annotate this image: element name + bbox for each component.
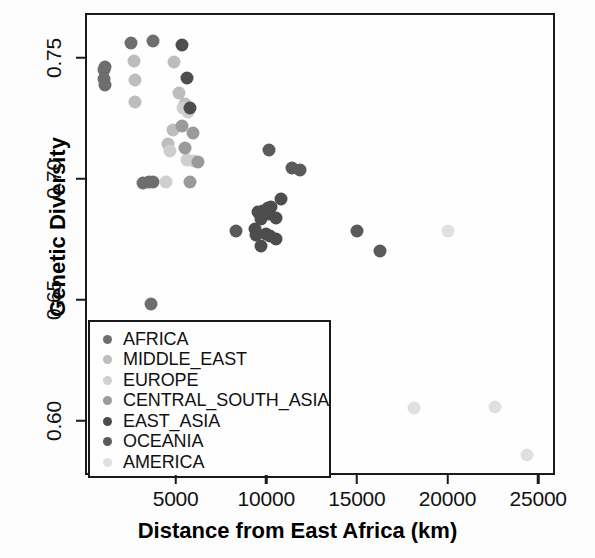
data-point <box>147 35 160 48</box>
data-point <box>181 71 194 84</box>
x-axis-tick-label: 20000 <box>419 487 476 511</box>
data-point <box>99 78 112 91</box>
legend-marker-icon <box>103 335 112 344</box>
legend-item-label: EAST_ASIA <box>123 411 220 432</box>
data-point <box>159 175 172 188</box>
data-point <box>408 402 421 415</box>
legend-box: AFRICAMIDDLE_EASTEUROPECENTRAL_SOUTH_ASI… <box>88 320 331 478</box>
data-point <box>145 297 158 310</box>
data-point <box>263 144 276 157</box>
data-point <box>521 449 534 462</box>
y-axis-tick-label: 0.70 <box>42 158 66 198</box>
data-point <box>128 54 141 67</box>
data-point <box>351 225 364 238</box>
data-point <box>373 244 386 257</box>
data-point <box>164 145 177 158</box>
data-point <box>176 39 189 52</box>
legend-item-east-asia: EAST_ASIA <box>90 411 329 432</box>
legend-item-europe: EUROPE <box>90 370 329 391</box>
data-point <box>178 141 191 154</box>
x-axis-title: Distance from East Africa (km) <box>0 518 595 544</box>
legend-item-middle-east: MIDDLE_EAST <box>90 350 329 371</box>
data-point <box>269 212 282 225</box>
legend-item-label: EUROPE <box>123 370 198 391</box>
x-axis-tick-label: 25000 <box>509 487 566 511</box>
data-point <box>229 225 242 238</box>
y-axis-tick <box>76 419 85 422</box>
data-point <box>187 127 200 140</box>
y-axis-tick-label: 0.75 <box>42 37 66 77</box>
data-point <box>488 400 501 413</box>
data-point <box>441 225 454 238</box>
y-axis-title: Genetic Diversity <box>45 77 71 377</box>
legend-item-label: OCEANIA <box>123 431 203 452</box>
legend-item-central-south-asia: CENTRAL_SOUTH_ASIA <box>90 391 329 412</box>
x-axis-tick-label: 10000 <box>238 487 295 511</box>
data-point <box>255 239 268 252</box>
y-axis-tick <box>76 56 85 59</box>
x-axis-tick-label: 5000 <box>153 487 199 511</box>
data-point <box>270 232 283 245</box>
legend-item-label: CENTRAL_SOUTH_ASIA <box>123 390 329 411</box>
x-axis-tick <box>446 475 449 484</box>
legend-item-label: AMERICA <box>123 452 204 473</box>
data-point <box>99 60 112 73</box>
legend-marker-icon <box>103 417 112 426</box>
legend-marker-icon <box>103 355 112 364</box>
legend-item-africa: AFRICA <box>90 329 329 350</box>
data-point <box>184 101 197 114</box>
legend-item-america: AMERICA <box>90 452 329 473</box>
data-point <box>274 192 287 205</box>
y-axis-tick-label: 0.60 <box>42 401 66 441</box>
data-point <box>184 175 197 188</box>
scatter-plot-figure: Genetic Diversity AFRICAMIDDLE_EASTEUROP… <box>0 0 595 558</box>
legend-marker-icon <box>103 458 112 467</box>
data-point <box>147 175 160 188</box>
x-axis-tick-label: 15000 <box>328 487 385 511</box>
x-axis-tick <box>265 475 268 484</box>
legend-marker-icon <box>103 396 112 405</box>
legend-marker-icon <box>103 437 112 446</box>
legend-item-oceania: OCEANIA <box>90 432 329 453</box>
data-point <box>125 36 138 49</box>
legend-marker-icon <box>103 376 112 385</box>
legend-item-label: MIDDLE_EAST <box>123 349 247 370</box>
y-axis-tick <box>76 298 85 301</box>
legend-item-label: AFRICA <box>123 329 188 350</box>
y-axis-tick <box>76 177 85 180</box>
x-axis-tick <box>174 475 177 484</box>
x-axis-tick <box>537 475 540 484</box>
data-point <box>293 163 306 176</box>
x-axis-tick <box>356 475 359 484</box>
data-point <box>191 156 204 169</box>
y-axis-tick-label: 0.65 <box>42 279 66 319</box>
data-point <box>128 74 141 87</box>
data-point <box>128 95 141 108</box>
data-point <box>168 55 181 68</box>
